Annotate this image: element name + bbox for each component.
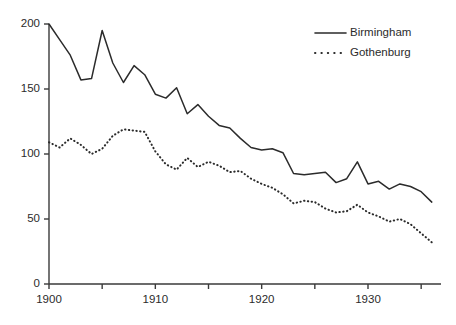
y-axis-tick-label: 150 (0, 83, 40, 95)
line-chart: 0501001502001900191019201930 BirminghamG… (0, 0, 456, 325)
y-axis-tick-label: 200 (0, 18, 40, 30)
y-axis-tick-label: 100 (0, 148, 40, 160)
x-axis-tick-label: 1930 (338, 294, 398, 306)
x-tick-marks (49, 284, 421, 289)
series-line-gothenburg (49, 129, 432, 242)
legend-line-samples (315, 33, 346, 53)
x-axis-tick-label: 1910 (125, 294, 185, 306)
legend-label-gothenburg: Gothenburg (350, 47, 411, 59)
x-axis-tick-label: 1920 (232, 294, 292, 306)
y-axis-tick-label: 50 (0, 213, 40, 225)
y-tick-marks (44, 24, 49, 284)
legend-label-birmingham: Birmingham (350, 27, 411, 39)
axes-group (49, 24, 441, 284)
x-axis-tick-label: 1900 (19, 294, 79, 306)
y-axis-tick-label: 0 (0, 278, 40, 290)
